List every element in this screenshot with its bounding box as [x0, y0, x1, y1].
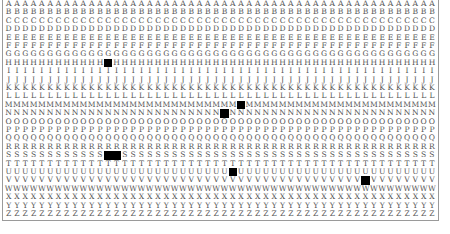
cell-letter: Z: [230, 209, 235, 218]
cell-letter: Z: [164, 209, 169, 218]
cell-letter: Z: [305, 209, 310, 218]
letter-cell: Z: [146, 210, 154, 218]
letter-cell: Z: [270, 210, 278, 218]
letter-cell: R: [112, 143, 120, 151]
cell-letter: Z: [139, 209, 144, 218]
cell-letter: R: [114, 142, 120, 151]
cell-letter: Z: [172, 209, 177, 218]
letter-cell: Z: [13, 210, 21, 218]
letter-cell: Z: [54, 210, 62, 218]
letter-cell: Z: [179, 210, 187, 218]
letter-cell: G: [104, 50, 112, 58]
cell-letter: Z: [106, 209, 111, 218]
cell-letter: Z: [255, 209, 260, 218]
letter-grid: AAAAAAAAAAAAAAAAAAAAAAAAAAAAAAAAAAAAAAAA…: [2, 0, 439, 221]
letter-cell: Z: [212, 210, 220, 218]
cell-letter: Z: [396, 209, 401, 218]
cell-letter: Z: [280, 209, 285, 218]
cell-letter: Z: [355, 209, 360, 218]
cell-letter: Z: [338, 209, 343, 218]
letter-cell: Z: [237, 210, 245, 218]
cell-letter: Z: [247, 209, 252, 218]
cell-letter: U: [362, 167, 368, 176]
cell-letter: Z: [288, 209, 293, 218]
cell-letter: Z: [114, 209, 119, 218]
cell-letter: Z: [363, 209, 368, 218]
cell-letter: Z: [48, 209, 53, 218]
letter-cell: Z: [137, 210, 145, 218]
cell-letter: Z: [6, 209, 11, 218]
letter-cell: Z: [204, 210, 212, 218]
letter-cell: Z: [79, 210, 87, 218]
letter-cell: L: [237, 92, 245, 100]
letter-cell: Z: [220, 210, 228, 218]
cell-letter: Z: [131, 209, 136, 218]
cell-letter: Z: [14, 209, 19, 218]
letter-cell: Z: [162, 210, 170, 218]
cell-letter: Z: [421, 209, 426, 218]
letter-cell: T: [229, 160, 237, 168]
letter-cell: Z: [112, 210, 120, 218]
cell-letter: Z: [380, 209, 385, 218]
cell-letter: Z: [23, 209, 28, 218]
cell-letter: Z: [313, 209, 318, 218]
letter-cell: Z: [262, 210, 270, 218]
letter-cell: R: [104, 143, 112, 151]
cell-letter: Z: [189, 209, 194, 218]
cell-letter: Z: [205, 209, 210, 218]
cell-letter: Z: [388, 209, 393, 218]
letter-cell: Z: [403, 210, 411, 218]
letter-cell: Z: [328, 210, 336, 218]
letter-cell: Z: [195, 210, 203, 218]
cell-letter: Z: [404, 209, 409, 218]
letter-cell: Z: [312, 210, 320, 218]
cell-letter: Z: [330, 209, 335, 218]
cell-letter: Z: [180, 209, 185, 218]
letter-cell: U: [361, 168, 369, 176]
cell-letter: Z: [31, 209, 36, 218]
cell-letter: Z: [346, 209, 351, 218]
cell-letter: Z: [429, 209, 434, 218]
cell-letter: Z: [122, 209, 127, 218]
letter-cell: Z: [303, 210, 311, 218]
cell-letter: Z: [81, 209, 86, 218]
cell-letter: Z: [371, 209, 376, 218]
letter-cell: Z: [428, 210, 436, 218]
letter-cell: Z: [245, 210, 253, 218]
cell-letter: Z: [238, 209, 243, 218]
cell-letter: Z: [297, 209, 302, 218]
letter-cell: Z: [278, 210, 286, 218]
letter-cell: Z: [46, 210, 54, 218]
cell-letter: Z: [155, 209, 160, 218]
letter-cell: Z: [29, 210, 37, 218]
cell-letter: Z: [197, 209, 202, 218]
letter-cell: Z: [386, 210, 394, 218]
cell-letter: Z: [147, 209, 152, 218]
cell-letter: Z: [72, 209, 77, 218]
letter-cell: Z: [38, 210, 46, 218]
letter-cell: Z: [345, 210, 353, 218]
letter-cell: Z: [378, 210, 386, 218]
cell-letter: T: [230, 159, 235, 168]
letter-cell: Z: [395, 210, 403, 218]
cell-letter: G: [105, 49, 111, 58]
letter-cell: Z: [287, 210, 295, 218]
letter-cell: Z: [187, 210, 195, 218]
letter-cell: Z: [337, 210, 345, 218]
letter-cell: Z: [121, 210, 129, 218]
letter-cell: Z: [5, 210, 13, 218]
letter-cell: Z: [129, 210, 137, 218]
letter-cell: Z: [71, 210, 79, 218]
cell-letter: L: [239, 91, 244, 100]
cell-letter: Z: [39, 209, 44, 218]
cell-letter: Z: [321, 209, 326, 218]
letter-cell: Z: [353, 210, 361, 218]
cell-letter: Z: [222, 209, 227, 218]
letter-cell: Z: [320, 210, 328, 218]
letter-cell: Z: [254, 210, 262, 218]
letter-cell: Z: [104, 210, 112, 218]
letter-cell: Z: [96, 210, 104, 218]
letter-cell: Z: [229, 210, 237, 218]
cell-letter: Z: [263, 209, 268, 218]
cell-letter: Z: [97, 209, 102, 218]
